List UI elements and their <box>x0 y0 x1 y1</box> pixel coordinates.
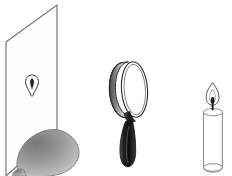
wick-ember <box>211 97 215 103</box>
diagram-svg <box>0 0 232 176</box>
lens-handle <box>120 121 136 167</box>
shadow-tail <box>12 169 26 176</box>
magnifying-glass <box>109 61 149 167</box>
optics-diagram-canvas: Converging lens forming an inverted real… <box>0 0 232 176</box>
candle <box>203 83 222 173</box>
